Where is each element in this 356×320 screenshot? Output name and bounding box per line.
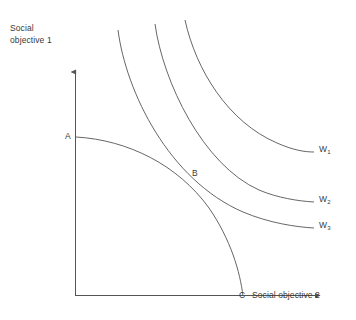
y-axis-title: Social objective 1	[10, 22, 52, 46]
curve-label-w2-subscript: 2	[327, 199, 330, 205]
curve-label-w1-subscript: 1	[327, 149, 330, 155]
curve-label-w3: W3	[319, 220, 331, 233]
indifference-curve-w1	[185, 20, 314, 152]
curve-label-w3-text: W	[319, 220, 327, 230]
curve-label-w1: W1	[319, 144, 331, 157]
point-c-label: C	[239, 290, 245, 302]
curve-label-w3-subscript: 3	[327, 225, 330, 231]
point-a-label: A	[65, 131, 71, 143]
indifference-curve-w2	[155, 24, 314, 202]
diagram-canvas	[0, 0, 356, 320]
point-b-label: B	[192, 168, 198, 180]
x-axis-title: Social objective 2	[252, 290, 320, 302]
production-possibility-frontier-curve	[76, 137, 243, 296]
curve-label-w2-text: W	[319, 194, 327, 204]
social-welfare-diagram: Social objective 1 Social objective 2 A …	[0, 0, 356, 320]
curve-label-w1-text: W	[319, 144, 327, 154]
curve-label-w2: W2	[319, 194, 331, 207]
